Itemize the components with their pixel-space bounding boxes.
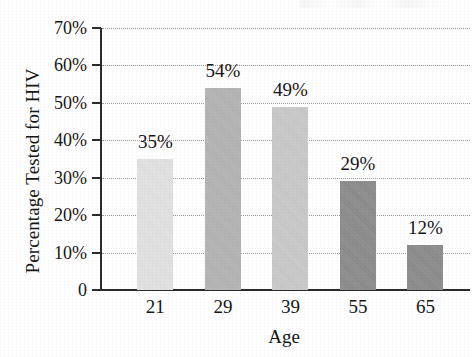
y-tick-label-30: 30% [54, 167, 87, 188]
y-tick-mark-20 [92, 214, 101, 216]
y-tick-mark-50 [92, 102, 101, 104]
bar-chart-figure: Percentage Tested for HIV 010%20%30%40%5… [0, 0, 472, 357]
x-tick-label-29: 29 [213, 296, 232, 318]
y-tick-mark-40 [92, 139, 101, 141]
bar-value-label-39: 49% [273, 79, 308, 101]
bar-value-label-21: 35% [138, 131, 173, 153]
y-axis-title: Percentage Tested for HIV [22, 46, 44, 296]
gridline-70 [102, 28, 470, 29]
x-tick-label-55: 55 [348, 296, 367, 318]
y-tick-mark-0 [92, 289, 101, 291]
y-tick-label-50: 50% [54, 92, 87, 113]
bar-value-label-55: 29% [341, 153, 376, 175]
y-tick-mark-30 [92, 177, 101, 179]
y-tick-label-70: 70% [54, 18, 87, 39]
y-tick-label-40: 40% [54, 130, 87, 151]
gridline-50 [102, 103, 470, 104]
bar-value-label-29: 54% [205, 60, 240, 82]
x-axis-title: Age [100, 326, 468, 348]
bar-55 [340, 181, 376, 290]
y-tick-label-60: 60% [54, 55, 87, 76]
plot-area: 010%20%30%40%50%60%70% 35%54%49%29%12% 2… [100, 28, 468, 290]
bar-39 [272, 107, 308, 290]
scan-artifact-top [300, 0, 450, 8]
y-tick-label-10: 10% [54, 242, 87, 263]
y-tick-mark-10 [92, 252, 101, 254]
bar-value-label-65: 12% [408, 217, 443, 239]
y-tick-label-20: 20% [54, 205, 87, 226]
x-tick-label-21: 21 [146, 296, 165, 318]
y-tick-mark-60 [92, 64, 101, 66]
y-tick-mark-70 [92, 27, 101, 29]
y-tick-label-0: 0 [78, 280, 87, 301]
gridline-60 [102, 65, 470, 66]
bar-21 [137, 159, 173, 290]
x-tick-label-39: 39 [281, 296, 300, 318]
bar-65 [407, 245, 443, 290]
x-tick-label-65: 65 [416, 296, 435, 318]
bar-29 [205, 88, 241, 290]
